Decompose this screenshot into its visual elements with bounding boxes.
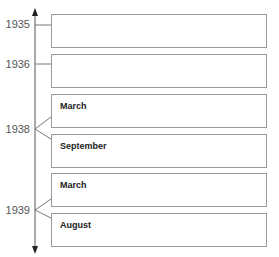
entry-label: September bbox=[60, 141, 107, 151]
year-label: 1936 bbox=[4, 58, 30, 70]
timeline-entry-box: September bbox=[51, 134, 267, 168]
connector-1938-march bbox=[35, 117, 51, 129]
timeline-entry-box bbox=[51, 54, 267, 88]
arrow-down-icon bbox=[32, 246, 38, 254]
connector-1938-september bbox=[35, 129, 51, 139]
year-label: 1939 bbox=[4, 204, 30, 216]
year-label: 1935 bbox=[4, 18, 30, 30]
timeline-entry-box: March bbox=[51, 173, 267, 207]
entry-label: August bbox=[60, 220, 91, 230]
connector-1939-march bbox=[35, 199, 51, 210]
timeline-entry-box bbox=[51, 14, 267, 48]
entry-label: March bbox=[60, 180, 87, 190]
entry-label: March bbox=[60, 101, 87, 111]
arrow-up-icon bbox=[32, 8, 38, 16]
timeline-entry-box: March bbox=[51, 94, 267, 128]
year-label: 1938 bbox=[4, 123, 30, 135]
connector-1939-august bbox=[35, 210, 51, 218]
timeline-entry-box: August bbox=[51, 213, 267, 247]
